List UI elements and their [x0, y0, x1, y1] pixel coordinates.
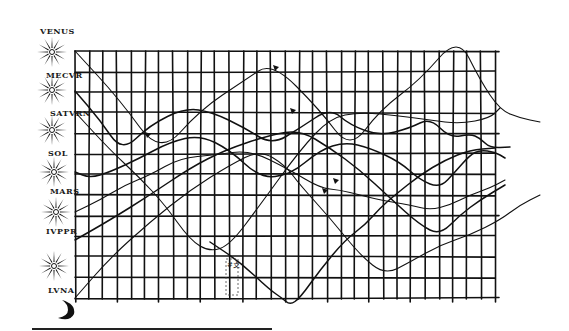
grid-column-line [368, 51, 369, 302]
star-ray [37, 89, 48, 90]
grid-column-line [354, 51, 355, 299]
star-ray [39, 83, 49, 89]
star-ray [49, 215, 55, 225]
star-center [50, 88, 55, 93]
star-ray [43, 213, 53, 219]
sol-star-icon [39, 157, 69, 187]
grid-row-line [75, 235, 495, 236]
star-center [52, 170, 57, 175]
star-ray [51, 56, 52, 67]
star-ray [41, 259, 51, 265]
grid-column-line [243, 51, 244, 302]
grid-row-line [75, 112, 495, 113]
star-ray [56, 89, 67, 90]
grid-column-line [410, 51, 411, 302]
grid-row-line [75, 195, 495, 196]
grid-row-line [75, 277, 495, 278]
star-ray [53, 93, 59, 103]
star-ray [55, 159, 61, 169]
star-ray [47, 253, 53, 263]
star-ray [55, 197, 56, 208]
grid-column-line [173, 51, 174, 299]
star-ray [53, 251, 54, 262]
star-ray [39, 171, 50, 172]
star-ray [51, 37, 52, 48]
grid-row-line [75, 153, 495, 154]
mars-star-icon [41, 197, 71, 227]
star-ray [45, 133, 51, 143]
mercury-path [75, 91, 510, 148]
star-ray [60, 211, 71, 212]
grid-column-line [200, 51, 201, 302]
grid-column-line [383, 51, 384, 299]
planet-label-mars: MARS [50, 186, 80, 196]
star-ray [51, 134, 52, 145]
star-ray [57, 215, 63, 225]
star-ray [53, 55, 59, 65]
jupiter-path [75, 132, 505, 240]
star-ray [56, 129, 67, 130]
planet-label-ivppr: IVPPR [46, 226, 77, 236]
star-ray [45, 39, 51, 49]
star-ray [43, 205, 53, 211]
marginal-note: #⽁ [227, 260, 240, 269]
star-center [50, 128, 55, 133]
star-ray [39, 123, 49, 129]
star-ray [53, 157, 54, 168]
star-ray [39, 131, 49, 137]
star-ray [55, 269, 61, 279]
grid-column-line [397, 51, 398, 299]
grid-column-line [326, 51, 327, 302]
star-center [54, 210, 59, 215]
planet-label-satvrn: SATVRN [50, 108, 91, 118]
star-ray [55, 45, 65, 51]
star-ray [37, 51, 48, 52]
saturn-path [75, 108, 500, 250]
star-ray [57, 267, 67, 273]
star-ray [57, 259, 67, 265]
star-ray [45, 55, 51, 65]
star-ray [51, 94, 52, 105]
star-ray [55, 131, 65, 137]
star-ray [57, 173, 67, 179]
grid-column-line [453, 51, 454, 302]
star-ray [39, 265, 50, 266]
grid-column-line [270, 51, 271, 299]
grid-row-line [75, 216, 499, 217]
bottom-rule [32, 328, 272, 330]
planet-label-sol: SOL [48, 148, 68, 158]
star-ray [41, 211, 52, 212]
planet-label-lvna: LVNA [48, 285, 74, 295]
star-ray [59, 213, 69, 219]
star-ray [56, 51, 67, 52]
planet-label-venus: VENUS [40, 26, 75, 36]
grid-row-line [75, 298, 499, 299]
star-ray [47, 175, 53, 185]
star-ray [55, 83, 65, 89]
star-ray [39, 53, 49, 59]
star-ray [55, 91, 65, 97]
grid-row-line [75, 51, 499, 52]
star-ray [57, 199, 63, 209]
star-ray [53, 39, 59, 49]
star-ray [58, 171, 69, 172]
path-marker [333, 178, 339, 184]
grid-column-line [75, 51, 76, 302]
diagram-canvas: #⽁ [0, 0, 569, 331]
satvrn-star-icon [37, 115, 67, 145]
venus-star-icon [37, 37, 67, 67]
star-ray [59, 205, 69, 211]
grid-column-line [116, 51, 117, 302]
star-ray [55, 53, 65, 59]
star-ray [53, 117, 59, 127]
star-ray [53, 270, 54, 281]
ivppr-star-icon [39, 251, 69, 281]
star-ray [39, 91, 49, 97]
star-ray [57, 165, 67, 171]
planetary-diagram: #⽁ VENUSMECVRSATVRNSOLMARSIVPPRLVNA [0, 0, 569, 331]
star-ray [41, 165, 51, 171]
star-ray [41, 173, 51, 179]
star-ray [45, 93, 51, 103]
star-ray [37, 129, 48, 130]
star-center [52, 264, 57, 269]
